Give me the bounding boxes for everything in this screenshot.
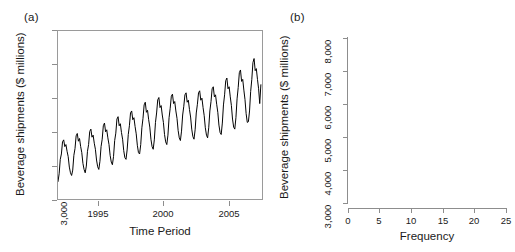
panel-b-ylabel: Beverage shipments ($ millions) [278, 35, 290, 199]
panel-b-tickmark-y4 [343, 71, 348, 72]
panel-a-tickmark-x2000 [163, 201, 164, 206]
panel-b-xtick-0: 0 [333, 215, 363, 226]
panel-b-ytick-8000: 8,000 [322, 37, 333, 67]
panel-b-y-axis [347, 37, 348, 203]
panel-a-tickmark-y0 [52, 200, 57, 201]
panel-a-tickmark-x2005 [229, 201, 230, 206]
panel-a-tickmark-x1995 [98, 201, 99, 206]
panel-b-tickmark-y0 [343, 203, 348, 204]
panel-b-ytick-3000: 3,000 [322, 202, 333, 232]
panel-b-tag: (b) [290, 11, 305, 23]
panel-b-tickmark-x10 [411, 208, 412, 213]
panel-b-tickmark-x5 [379, 208, 380, 213]
panel-a-tag: (a) [24, 11, 39, 23]
panel-b-tickmark-x0 [348, 208, 349, 213]
panel-b-tickmark-y2 [343, 137, 348, 138]
panel-b-tickmark-x20 [474, 208, 475, 213]
panel-b-ytick-4000: 4,000 [322, 169, 333, 199]
panel-b-tickmark-y5 [343, 38, 348, 39]
panel-b-tickmark-x25 [506, 208, 507, 213]
panel-b-ytick-5000: 5,000 [322, 136, 333, 166]
panel-b-x-axis [348, 208, 506, 209]
panel-b: (b) Beverage shipments ($ millions) 3,00… [268, 0, 515, 252]
panel-b-ytick-7000: 7,000 [322, 70, 333, 100]
panel-b-ytick-6000: 6,000 [322, 103, 333, 133]
panel-b-tickmark-y1 [343, 170, 348, 171]
panel-a-xlabel: Time Period [57, 225, 263, 237]
panel-a-plot-area [57, 30, 263, 200]
panel-b-xtick-20: 20 [459, 215, 489, 226]
panel-a-ylabel: Beverage shipments ($ millions) [14, 32, 26, 196]
panel-a-ytick-3000: 3,000 [58, 199, 69, 229]
panel-b-xtick-15: 15 [428, 215, 458, 226]
panel-b-tickmark-y3 [343, 104, 348, 105]
panel-b-xtick-5: 5 [364, 215, 394, 226]
panel-a: (a) Beverage shipments ($ millions) 3,00… [0, 0, 268, 252]
panel-b-xlabel: Frequency [348, 230, 506, 242]
panel-a-xtick-1995: 1995 [78, 208, 118, 219]
panel-b-xtick-10: 10 [396, 215, 426, 226]
figure-root: (a) Beverage shipments ($ millions) 3,00… [0, 0, 515, 252]
panel-a-xtick-2000: 2000 [143, 208, 183, 219]
panel-b-xtick-25: 25 [491, 215, 515, 226]
panel-b-tickmark-x15 [443, 208, 444, 213]
panel-a-xtick-2005: 2005 [209, 208, 249, 219]
panel-a-line-series [58, 31, 262, 199]
